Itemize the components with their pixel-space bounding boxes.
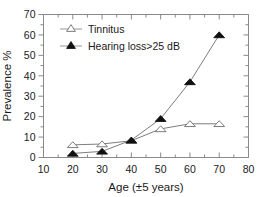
x-tick-label: 60 [184, 163, 196, 175]
legend-label-hearing-loss: Hearing loss>25 dB [88, 40, 180, 52]
x-tick-label: 80 [243, 163, 255, 175]
y-axis-title: Prevalence % [1, 51, 13, 122]
y-tick-label: 70 [24, 8, 36, 20]
legend-label-tinnitus: Tinnitus [88, 23, 124, 35]
chart-container: 1020304050607080010203040506070 Age (±5 … [0, 0, 264, 197]
y-tick-label: 30 [24, 90, 36, 102]
x-axis-title: Age (±5 years) [108, 181, 184, 193]
prevalence-vs-age-line-chart: 1020304050607080010203040506070 Age (±5 … [0, 0, 264, 197]
x-tick-label: 30 [96, 163, 108, 175]
y-tick-label: 40 [24, 70, 36, 82]
y-tick-label: 0 [30, 151, 36, 163]
y-tick-label: 20 [24, 110, 36, 122]
x-tick-label: 50 [155, 163, 167, 175]
y-tick-label: 50 [24, 49, 36, 61]
x-tick-label: 70 [213, 163, 225, 175]
y-tick-label: 10 [24, 131, 36, 143]
y-tick-label: 60 [24, 29, 36, 41]
x-tick-label: 20 [67, 163, 79, 175]
x-tick-label: 40 [126, 163, 138, 175]
x-tick-label: 10 [38, 163, 50, 175]
